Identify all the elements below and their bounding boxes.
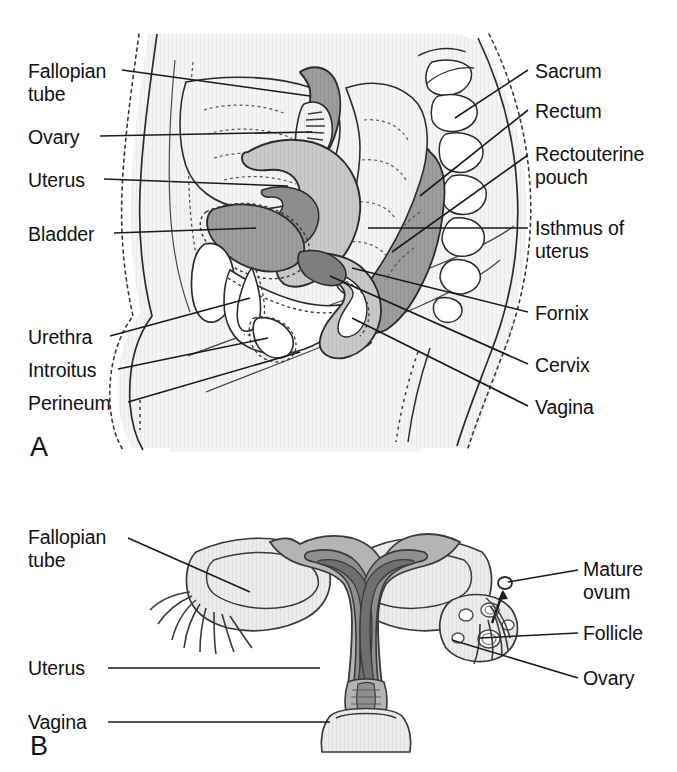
leader-mature-ovum-b (508, 570, 578, 582)
label-sacrum: Sacrum (535, 60, 602, 83)
label-rectum: Rectum (535, 100, 602, 123)
label-ovary: Ovary (28, 126, 80, 149)
label-mature-ovum: Mature ovum (583, 558, 643, 604)
vagina-b-shape (321, 709, 410, 753)
label-introitus: Introitus (28, 359, 96, 382)
label-isthmus-of-uterus: Isthmus of uterus (535, 217, 624, 263)
ovulation-arrow-head (498, 590, 508, 600)
label-vagina: Vagina (535, 396, 594, 419)
label-fallopian-tube-b: Fallopian tube (28, 526, 106, 572)
anatomy-figure: Fallopian tube Ovary Uterus Bladder Uret… (0, 0, 677, 772)
panel-letter-a: A (30, 432, 48, 462)
mature-ovum-shape (498, 577, 512, 589)
label-bladder: Bladder (28, 223, 95, 246)
label-uterus-b: Uterus (28, 657, 85, 680)
panel-letter-b: B (30, 731, 48, 761)
label-rectouterine-pouch: Rectouterine pouch (535, 143, 644, 189)
label-cervix: Cervix (535, 354, 590, 377)
label-urethra: Urethra (28, 326, 92, 349)
label-ovary-b: Ovary (583, 667, 635, 690)
label-fallopian-tube: Fallopian tube (28, 60, 106, 106)
panel-a-illustration (100, 34, 531, 452)
label-follicle: Follicle (583, 622, 643, 645)
panel-b-illustration (108, 534, 578, 752)
label-fornix: Fornix (535, 302, 589, 325)
label-perineum: Perineum (28, 392, 111, 415)
label-uterus: Uterus (28, 169, 85, 192)
